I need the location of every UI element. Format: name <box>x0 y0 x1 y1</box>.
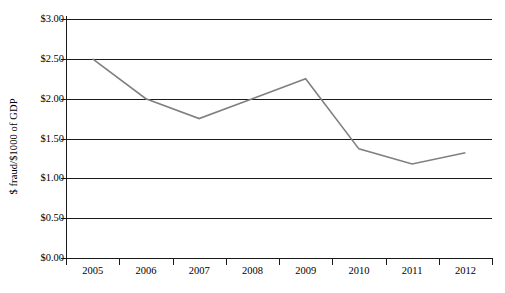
y-axis-title: $ fraud/$1000 of GDP <box>0 0 26 293</box>
data-series-line <box>66 19 492 258</box>
x-axis-tick-label: 2005 <box>82 264 103 279</box>
x-axis-tick-label: 2010 <box>348 264 369 279</box>
x-axis-tick-label: 2012 <box>455 264 476 279</box>
x-axis-tick-mark <box>492 258 493 265</box>
x-axis-tick-labels: 20052006200720082009201020112012 <box>66 264 492 284</box>
x-axis-tick-label: 2007 <box>189 264 210 279</box>
y-axis-tick-label: $2.50 <box>24 54 64 65</box>
y-axis-tick-label: $3.00 <box>24 14 64 25</box>
y-axis-tick-label: $2.00 <box>24 93 64 104</box>
x-axis-tick-label: 2006 <box>135 264 156 279</box>
x-axis-tick-label: 2011 <box>402 264 423 279</box>
line-chart: $ fraud/$1000 of GDP $0.00$0.50$1.00$1.5… <box>0 0 505 293</box>
x-axis-tick-label: 2008 <box>242 264 263 279</box>
y-axis-tick-label: $0.50 <box>24 213 64 224</box>
x-axis-tick-label: 2009 <box>295 264 316 279</box>
y-axis-tick-labels: $0.00$0.50$1.00$1.50$2.00$2.50$3.00 <box>24 19 64 258</box>
y-axis-tick-label: $1.00 <box>24 173 64 184</box>
y-axis-tick-label: $1.50 <box>24 133 64 144</box>
y-axis-tick-label: $0.00 <box>24 253 64 264</box>
